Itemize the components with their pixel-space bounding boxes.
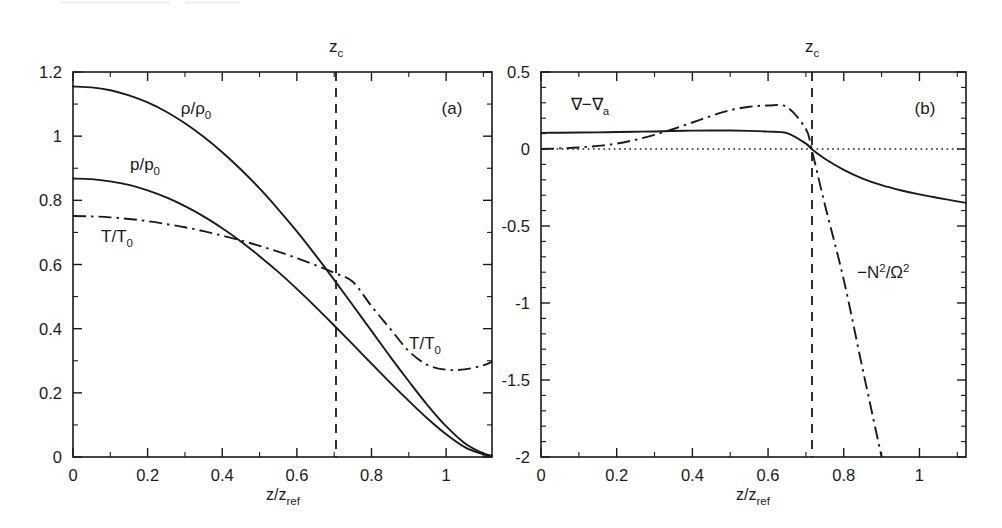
panel-a-ytick-label: 0 [53,448,62,466]
panel-a-xtick-label: 0.4 [211,466,234,484]
panel-b-series-grad-grad-a [541,130,966,202]
panel-b-label-nsq: −N2/Ω2 [857,262,909,282]
panel-a-xtick-label: 1 [442,466,451,484]
panel-a-label-p: p/p0 [130,155,160,177]
panel-b-xtick-label: 0.2 [605,466,628,484]
panel-a-curves [73,86,492,456]
panel-b: 00.20.40.60.810.50-0.5-1-1.5-2 zc (b) ∇−… [502,37,966,507]
panel-a-ytick-label: 0.6 [39,256,62,274]
panel-b-xtick-label: 0.4 [681,466,704,484]
panel-b-xtick-label: 0 [536,466,545,484]
panel-a-frame [73,72,492,457]
panel-a-label-rho: ρ/ρ0 [181,99,211,121]
panel-a: 00.20.40.60.8100.20.40.60.811.2 zc (a) ρ… [39,37,492,507]
panel-a-ytick-label: 0.4 [39,320,62,338]
panel-b-ytick-label: -2 [515,448,530,466]
panel-b-series--n-2-omega-2 [541,105,882,457]
panel-b-zc-label: zc [805,37,820,59]
panel-a-xtick-label: 0.6 [285,466,308,484]
panel-b-panel-label: (b) [915,99,936,118]
panel-b-xtick-label: 0.8 [832,466,855,484]
panel-a-tick-labels: 00.20.40.60.8100.20.40.60.811.2 [39,63,451,484]
panel-a-series-rho-rho-0 [73,86,492,455]
panel-b-ytick-label: -0.5 [502,217,530,235]
panel-a-zc-label: zc [329,37,344,59]
panel-a-xaxis-title: z/zref [266,486,301,507]
panel-b-ytick-label: 0.5 [507,63,530,81]
panel-a-ytick-label: 0.2 [39,384,62,402]
panel-a-label-T: T/T0 [101,227,133,249]
panel-a-panel-label: (a) [442,99,463,118]
panel-a-xtick-label: 0.8 [360,466,383,484]
figure-canvas: 00.20.40.60.8100.20.40.60.811.2 zc (a) ρ… [0,0,1002,528]
panel-b-xtick-label: 1 [915,466,924,484]
panel-a-ytick-label: 0.8 [39,191,62,209]
panel-b-ytick-label: 0 [521,140,530,158]
panel-a-axis-ticks [73,72,492,457]
panel-b-ytick-label: -1.5 [502,371,530,389]
panel-b-xtick-label: 0.6 [757,466,780,484]
panel-a-ytick-label: 1 [53,127,62,145]
panel-a-label-T-right: T/T0 [409,334,441,356]
panel-a-xtick-label: 0 [68,466,77,484]
panel-b-label-grad: ∇−∇a [570,95,610,117]
panel-b-ytick-label: -1 [515,294,530,312]
panel-b-xaxis-title: z/zref [736,486,771,507]
panel-a-xtick-label: 0.2 [136,466,159,484]
panel-a-ytick-label: 1.2 [39,63,62,81]
